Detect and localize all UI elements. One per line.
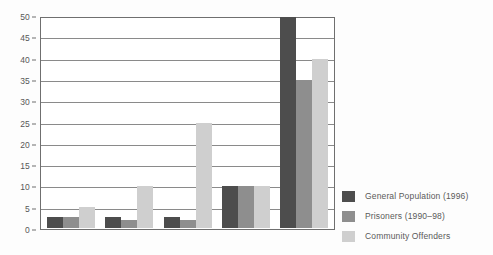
bar bbox=[296, 80, 312, 228]
y-tick-label: 35 bbox=[20, 76, 30, 86]
bar bbox=[180, 220, 196, 228]
legend-label: Prisoners (1990–98) bbox=[365, 211, 445, 221]
y-tick-mark bbox=[32, 17, 36, 18]
y-tick-mark bbox=[32, 144, 36, 145]
y-tick-mark bbox=[32, 38, 36, 39]
y-tick-mark bbox=[32, 123, 36, 124]
bar-group bbox=[42, 19, 100, 228]
y-tick-label: 40 bbox=[20, 55, 30, 65]
legend-item: General Population (1996) bbox=[342, 186, 490, 206]
y-tick-mark bbox=[32, 230, 36, 231]
bar bbox=[63, 217, 79, 228]
bar bbox=[137, 186, 153, 228]
chart-legend: General Population (1996)Prisoners (1990… bbox=[342, 186, 490, 246]
bar bbox=[105, 217, 121, 228]
bar-group bbox=[100, 19, 158, 228]
bar bbox=[164, 217, 180, 228]
y-tick-label: 5 bbox=[25, 204, 30, 214]
legend-label: General Population (1996) bbox=[365, 191, 468, 201]
legend-swatch bbox=[342, 211, 355, 222]
y-tick-mark bbox=[32, 208, 36, 209]
bar bbox=[121, 220, 137, 228]
legend-item: Prisoners (1990–98) bbox=[342, 206, 490, 226]
y-tick-label: 45 bbox=[20, 33, 30, 43]
y-axis: 05101520253035404550 bbox=[0, 17, 36, 230]
bar-group bbox=[158, 19, 216, 228]
y-tick-label: 10 bbox=[20, 182, 30, 192]
bar bbox=[79, 207, 95, 228]
y-tick-label: 30 bbox=[20, 97, 30, 107]
y-tick-label: 20 bbox=[20, 140, 30, 150]
y-tick-mark bbox=[32, 187, 36, 188]
legend-label: Community Offenders bbox=[365, 231, 450, 241]
plot-wrapper bbox=[40, 17, 335, 230]
bars-layer bbox=[42, 19, 333, 228]
y-tick-mark bbox=[32, 80, 36, 81]
bar bbox=[280, 17, 296, 228]
y-tick-mark bbox=[32, 102, 36, 103]
bar-group bbox=[275, 19, 333, 228]
legend-swatch bbox=[342, 191, 355, 202]
legend-swatch bbox=[342, 231, 355, 242]
bar bbox=[312, 59, 328, 228]
y-tick-mark bbox=[32, 59, 36, 60]
plot-area bbox=[40, 17, 335, 230]
y-tick-label: 15 bbox=[20, 161, 30, 171]
bar bbox=[196, 123, 212, 229]
y-tick-label: 25 bbox=[20, 119, 30, 129]
bar-group bbox=[217, 19, 275, 228]
bar bbox=[238, 186, 254, 228]
y-tick-label: 50 bbox=[20, 12, 30, 22]
bar bbox=[47, 217, 63, 228]
legend-item: Community Offenders bbox=[342, 226, 490, 246]
y-tick-mark bbox=[32, 166, 36, 167]
bar bbox=[254, 186, 270, 228]
y-tick-label: 0 bbox=[25, 225, 30, 235]
bar bbox=[222, 186, 238, 228]
bar-chart-figure: 05101520253035404550 General Population … bbox=[0, 0, 493, 255]
